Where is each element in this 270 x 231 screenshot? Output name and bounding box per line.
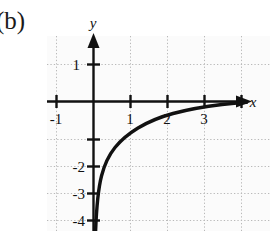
tick-label-x-2: 2: [163, 111, 171, 127]
tick-label-y-1: 1: [73, 57, 81, 73]
tick-label-y-neg2: -2: [73, 159, 86, 175]
figure-panel-b: (b): [0, 0, 270, 231]
coordinate-plot: x y -1 1 2 3 1 -2 -3 -4: [0, 0, 270, 231]
tick-label-y-neg3: -3: [73, 186, 86, 202]
plot-svg: x y -1 1 2 3 1 -2 -3 -4: [0, 0, 270, 231]
tick-label-x-1: 1: [126, 111, 134, 127]
x-axis-label: x: [249, 94, 257, 110]
tick-label-x-neg1: -1: [50, 111, 63, 127]
tick-label-y-neg4: -4: [73, 213, 86, 229]
tick-label-x-3: 3: [200, 111, 208, 127]
y-axis-label: y: [88, 15, 97, 31]
